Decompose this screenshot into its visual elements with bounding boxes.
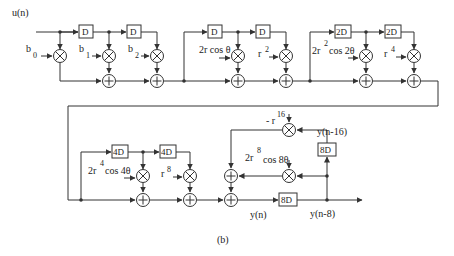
coef-2r8cos8theta: 2r bbox=[245, 152, 254, 163]
adder bbox=[232, 75, 245, 88]
multiplier-b0 bbox=[54, 50, 67, 63]
adder bbox=[184, 194, 197, 207]
coef-r4: r bbox=[384, 48, 388, 59]
coef-b0: b bbox=[26, 43, 31, 54]
coef-2rcos-theta: 2r cos θ bbox=[199, 44, 231, 55]
signal-y-n-minus-8: y(n-8) bbox=[310, 208, 335, 220]
coef-neg-r16: - r bbox=[266, 115, 276, 126]
adder-output bbox=[225, 194, 238, 207]
superscript: 4 bbox=[100, 159, 104, 168]
coef-b2: b bbox=[128, 43, 133, 54]
delay-label: D bbox=[211, 27, 218, 37]
adder bbox=[137, 194, 150, 207]
adder bbox=[408, 75, 421, 88]
delay-label: D bbox=[130, 27, 137, 37]
superscript: 8 bbox=[257, 146, 261, 155]
signal-y-n-minus-16: y(n-16) bbox=[317, 126, 347, 138]
coef-2r4cos4theta: 2r bbox=[88, 165, 97, 176]
delay-label: 2D bbox=[336, 27, 348, 37]
superscript: 4 bbox=[391, 45, 395, 54]
coef-cos-term: cos 8θ bbox=[263, 154, 289, 165]
delay-label: 4D bbox=[161, 147, 173, 157]
coef-r2: r bbox=[258, 48, 262, 59]
input-label: u(n) bbox=[12, 7, 29, 19]
coef-r8: r bbox=[161, 168, 165, 179]
multiplier-b2 bbox=[151, 50, 164, 63]
multiplier-2rcos bbox=[232, 50, 245, 63]
delay-label: 8D bbox=[320, 145, 332, 155]
multiplier-r8 bbox=[184, 170, 197, 183]
subscript: 0 bbox=[33, 51, 37, 60]
signal-flow-diagram: u(n) D D b 0 b 1 b 2 bbox=[0, 0, 454, 256]
multiplier-r4 bbox=[408, 50, 421, 63]
coef-cos-term: cos 4θ bbox=[105, 165, 131, 176]
adder bbox=[280, 75, 293, 88]
delay-label: 2D bbox=[386, 27, 398, 37]
multiplier-b1 bbox=[103, 50, 116, 63]
subscript: 2 bbox=[135, 51, 139, 60]
multiplier-2r2cos2theta bbox=[360, 50, 373, 63]
multiplier-neg-r16 bbox=[283, 124, 296, 137]
superscript: 16 bbox=[277, 110, 285, 119]
multiplier-r2 bbox=[280, 50, 293, 63]
delay-label: 8D bbox=[281, 195, 293, 205]
delay-label: 4D bbox=[113, 147, 125, 157]
superscript: 8 bbox=[167, 165, 171, 174]
multiplier-2r8cos8theta bbox=[283, 170, 296, 183]
subscript: 1 bbox=[86, 51, 90, 60]
adder bbox=[360, 75, 373, 88]
figure-caption: (b) bbox=[217, 234, 229, 246]
signal-y-n: y(n) bbox=[250, 209, 267, 221]
adder bbox=[151, 75, 164, 88]
adder-feedback bbox=[225, 170, 238, 183]
wrap-connector bbox=[68, 81, 438, 200]
delay-label: D bbox=[259, 27, 266, 37]
coef-2r2cos2theta: 2r bbox=[312, 45, 321, 56]
superscript: 2 bbox=[324, 39, 328, 48]
adder bbox=[103, 75, 116, 88]
multiplier-2r4cos4theta bbox=[137, 170, 150, 183]
superscript: 2 bbox=[265, 45, 269, 54]
delay-label: D bbox=[82, 27, 89, 37]
coef-b1: b bbox=[79, 43, 84, 54]
coef-cos-term: cos 2θ bbox=[329, 45, 355, 56]
